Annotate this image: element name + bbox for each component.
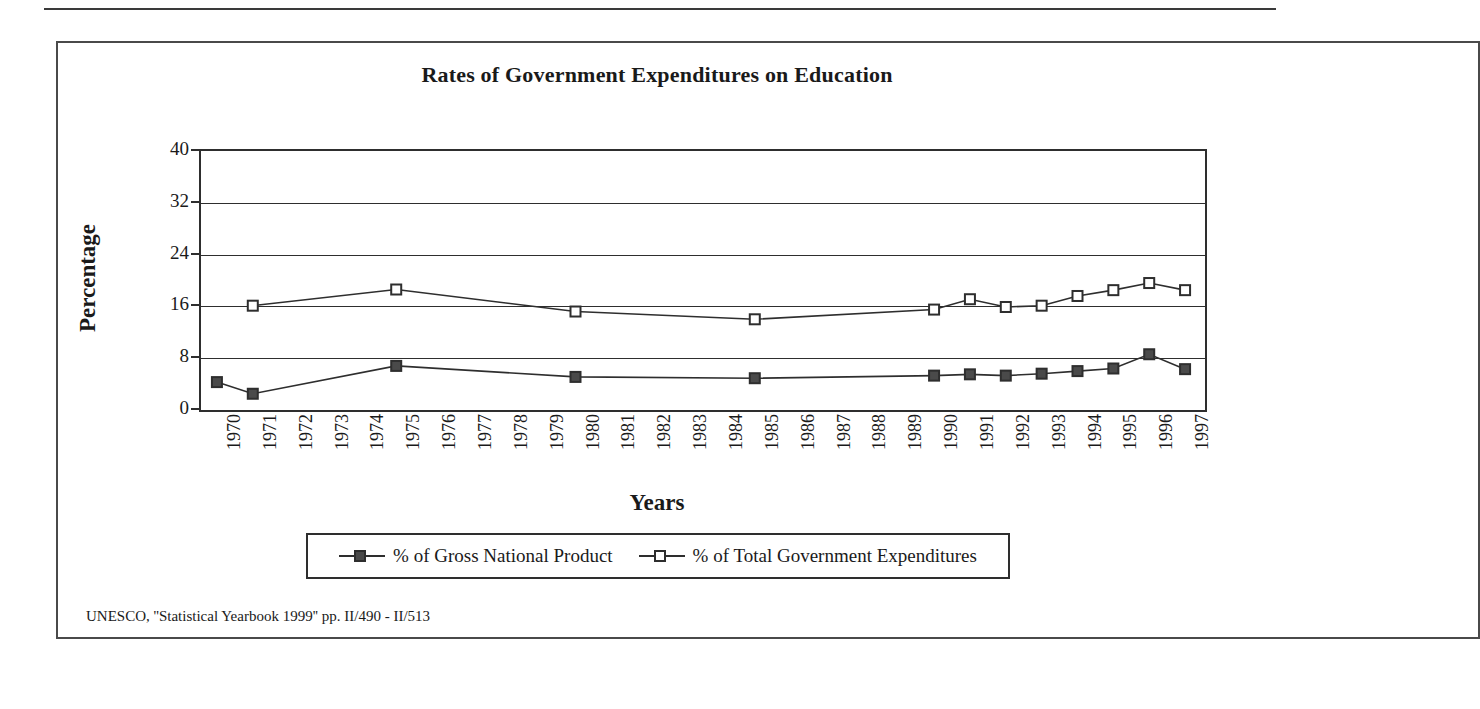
y-axis-title: Percentage bbox=[75, 224, 101, 332]
y-axis-tick-mark bbox=[191, 356, 201, 358]
data-point-marker bbox=[571, 307, 581, 317]
data-point-marker bbox=[750, 373, 760, 383]
y-axis-tick-label: 16 bbox=[170, 293, 189, 315]
y-axis-tick-mark bbox=[191, 304, 201, 306]
x-axis-tick-label: 1970 bbox=[224, 414, 245, 450]
x-axis-tick-label: 1972 bbox=[296, 414, 317, 450]
y-axis-tick-labels: 0816243240 bbox=[145, 149, 189, 408]
series-overlay bbox=[199, 149, 1203, 408]
data-point-marker bbox=[965, 294, 975, 304]
x-axis-tick-label: 1985 bbox=[762, 414, 783, 450]
data-point-marker bbox=[1037, 369, 1047, 379]
data-point-marker bbox=[212, 377, 222, 387]
data-point-marker bbox=[571, 372, 581, 382]
data-point-marker bbox=[1180, 364, 1190, 374]
data-point-marker bbox=[248, 389, 258, 399]
x-axis-tick-label: 1988 bbox=[869, 414, 890, 450]
y-axis-tick-mark bbox=[191, 149, 201, 151]
data-point-marker bbox=[929, 305, 939, 315]
data-point-marker bbox=[929, 371, 939, 381]
y-axis-tick-label: 32 bbox=[170, 190, 189, 212]
data-point-marker bbox=[1037, 301, 1047, 311]
x-axis-tick-label: 1994 bbox=[1085, 414, 1106, 450]
y-axis-tick-mark bbox=[191, 253, 201, 255]
x-axis-tick-label: 1982 bbox=[654, 414, 675, 450]
chart-title: Rates of Government Expenditures on Educ… bbox=[0, 62, 1314, 88]
x-axis-tick-label: 1995 bbox=[1120, 414, 1141, 450]
legend-item-total-government-expenditures: % of Total Government Expenditures bbox=[639, 545, 977, 567]
data-point-marker bbox=[1108, 364, 1118, 374]
data-point-marker bbox=[750, 314, 760, 324]
legend-item-gnp: % of Gross National Product bbox=[339, 545, 613, 567]
data-point-marker bbox=[1001, 371, 1011, 381]
x-axis-title: Years bbox=[0, 490, 1314, 516]
x-axis-tick-labels: 1970197119721973197419751976197719781979… bbox=[199, 414, 1203, 492]
y-axis-tick-label: 0 bbox=[180, 397, 190, 419]
x-axis-tick-label: 1971 bbox=[260, 414, 281, 450]
x-axis-tick-label: 1978 bbox=[511, 414, 532, 450]
x-axis-tick-label: 1980 bbox=[583, 414, 604, 450]
x-axis-tick-label: 1974 bbox=[367, 414, 388, 450]
data-point-marker bbox=[1073, 291, 1083, 301]
y-axis-tick-mark bbox=[191, 201, 201, 203]
open-square-marker-icon bbox=[639, 549, 685, 563]
x-axis-tick-label: 1984 bbox=[726, 414, 747, 450]
x-axis-tick-label: 1993 bbox=[1049, 414, 1070, 450]
x-axis-tick-label: 1997 bbox=[1192, 414, 1213, 450]
data-point-marker bbox=[1180, 285, 1190, 295]
x-axis-tick-label: 1990 bbox=[941, 414, 962, 450]
legend-label-gnp: % of Gross National Product bbox=[393, 545, 613, 567]
x-axis-tick-label: 1981 bbox=[618, 414, 639, 450]
y-axis-tick-label: 8 bbox=[180, 345, 190, 367]
source-note: UNESCO, ''Statistical Yearbook 1999'' pp… bbox=[86, 608, 430, 625]
x-axis-tick-label: 1983 bbox=[690, 414, 711, 450]
data-point-marker bbox=[1108, 285, 1118, 295]
x-axis-tick-label: 1992 bbox=[1013, 414, 1034, 450]
data-point-marker bbox=[965, 369, 975, 379]
chart-legend: % of Gross National Product % of Total G… bbox=[306, 533, 1010, 579]
x-axis-tick-label: 1977 bbox=[475, 414, 496, 450]
data-point-marker bbox=[391, 361, 401, 371]
y-axis-tick-mark bbox=[191, 408, 201, 410]
data-point-marker bbox=[1144, 278, 1154, 288]
data-point-marker bbox=[248, 301, 258, 311]
x-axis-tick-label: 1991 bbox=[977, 414, 998, 450]
legend-label-total-government-expenditures: % of Total Government Expenditures bbox=[693, 545, 977, 567]
filled-square-marker-icon bbox=[339, 549, 385, 563]
x-axis-tick-label: 1987 bbox=[834, 414, 855, 450]
x-axis-tick-label: 1976 bbox=[439, 414, 460, 450]
x-axis-tick-label: 1973 bbox=[332, 414, 353, 450]
data-point-marker bbox=[391, 285, 401, 295]
data-point-marker bbox=[1001, 302, 1011, 312]
data-point-marker bbox=[1144, 349, 1154, 359]
y-axis-tick-label: 24 bbox=[170, 242, 189, 264]
x-axis-tick-label: 1989 bbox=[905, 414, 926, 450]
x-axis-tick-label: 1986 bbox=[798, 414, 819, 450]
x-axis-tick-label: 1975 bbox=[403, 414, 424, 450]
x-axis-tick-label: 1979 bbox=[547, 414, 568, 450]
top-divider-rule bbox=[44, 8, 1276, 10]
data-point-marker bbox=[1073, 366, 1083, 376]
x-axis-tick-label: 1996 bbox=[1156, 414, 1177, 450]
y-axis-tick-label: 40 bbox=[170, 138, 189, 160]
